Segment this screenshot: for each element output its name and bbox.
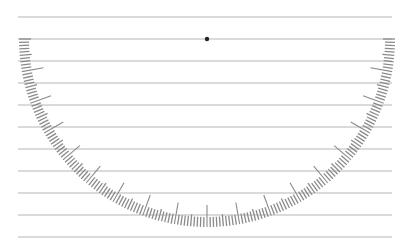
arc-tick bbox=[29, 97, 38, 100]
arc-tick bbox=[22, 73, 32, 75]
arc-tick bbox=[377, 91, 387, 94]
arc-tick bbox=[99, 183, 106, 193]
arc-tick bbox=[194, 217, 195, 227]
arc-tick bbox=[28, 94, 38, 97]
arc-tick bbox=[271, 205, 275, 214]
arc-tick bbox=[378, 88, 388, 91]
arc-tick bbox=[19, 48, 29, 49]
arc-tick bbox=[20, 58, 30, 59]
arc-tick bbox=[23, 76, 33, 78]
arc-tick bbox=[197, 217, 198, 227]
arc-tick bbox=[165, 212, 167, 222]
arc-tick bbox=[247, 212, 249, 222]
arc-tick bbox=[232, 215, 233, 225]
arc-tick bbox=[264, 195, 272, 216]
arc-tick bbox=[219, 217, 220, 227]
arc-tick bbox=[250, 212, 252, 222]
arc-tick bbox=[152, 209, 155, 219]
arc-tick bbox=[274, 204, 278, 213]
arc-tick bbox=[229, 216, 230, 226]
arc-tick bbox=[262, 208, 265, 218]
arc-tick bbox=[375, 97, 384, 100]
arc-tick bbox=[137, 204, 141, 213]
arc-tick bbox=[381, 76, 391, 78]
arc-tick bbox=[385, 51, 395, 52]
arc-tick bbox=[235, 215, 237, 225]
arc-tick bbox=[25, 85, 37, 88]
arc-tick bbox=[178, 215, 180, 225]
arc-tick bbox=[226, 216, 227, 226]
arc-tick bbox=[384, 58, 394, 59]
arc-tick bbox=[184, 216, 185, 226]
arc-tick bbox=[372, 106, 381, 110]
arc-tick bbox=[27, 91, 37, 94]
arc-tick bbox=[259, 209, 262, 219]
arc-tick bbox=[380, 79, 390, 81]
arc-tick bbox=[222, 214, 223, 226]
arc-tick bbox=[33, 106, 42, 110]
arc-tick bbox=[24, 79, 34, 81]
arc-tick bbox=[19, 51, 29, 52]
arc-tick bbox=[308, 183, 315, 193]
center-point bbox=[205, 37, 209, 41]
ruled-lines bbox=[18, 17, 392, 237]
arc-tick bbox=[191, 214, 192, 226]
arc-tick-scale bbox=[19, 39, 395, 227]
arc-tick bbox=[383, 67, 393, 69]
arc-tick bbox=[20, 54, 32, 55]
arc-tick bbox=[187, 216, 188, 226]
arc-tick bbox=[384, 61, 394, 62]
arc-tick bbox=[383, 64, 393, 65]
protractor-canvas bbox=[0, 0, 409, 251]
arc-tick bbox=[376, 94, 386, 97]
arc-tick bbox=[216, 217, 217, 227]
arc-tick bbox=[162, 212, 164, 222]
arc-tick bbox=[53, 140, 63, 147]
arc-tick bbox=[181, 215, 182, 225]
arc-tick bbox=[140, 205, 144, 214]
arc-tick bbox=[377, 85, 389, 88]
arc-tick bbox=[30, 96, 51, 104]
arc-tick bbox=[21, 64, 31, 65]
arc-tick bbox=[149, 208, 152, 218]
arc-tick bbox=[351, 140, 361, 147]
arc-tick bbox=[385, 48, 395, 49]
arc-tick bbox=[363, 96, 384, 104]
arc-tick bbox=[382, 54, 394, 55]
arc-tick bbox=[26, 88, 36, 91]
arc-tick bbox=[382, 73, 392, 75]
arc-tick bbox=[143, 195, 151, 216]
arc-tick bbox=[21, 67, 31, 69]
